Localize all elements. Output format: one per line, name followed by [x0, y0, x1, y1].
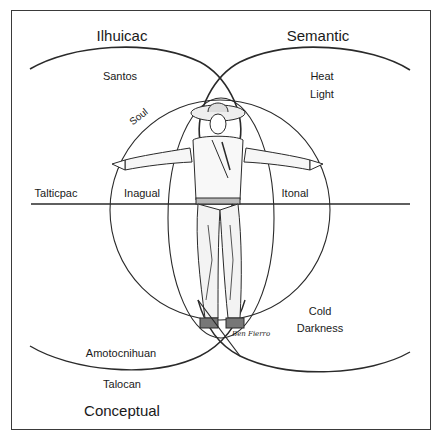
title-conceptual: Conceptual [84, 403, 160, 418]
diagram-lines [0, 0, 441, 443]
label-cold: Cold [309, 306, 332, 317]
figure-drawing [112, 103, 323, 356]
title-semantic: Semantic [287, 28, 350, 43]
label-inagual: Inagual [124, 188, 160, 199]
label-amotocnihuan: Amotocnihuan [86, 348, 156, 359]
label-darkness: Darkness [297, 323, 343, 334]
label-talocan: Talocan [103, 379, 141, 390]
label-santos: Santos [103, 71, 137, 82]
label-heat: Heat [310, 71, 333, 82]
title-ilhuicac: Ilhuicac [97, 28, 148, 43]
label-talticpac: Talticpac [35, 188, 78, 199]
label-light: Light [310, 89, 334, 100]
label-itonal: Itonal [282, 188, 309, 199]
artist-signature: Ben Fierro [232, 330, 270, 338]
